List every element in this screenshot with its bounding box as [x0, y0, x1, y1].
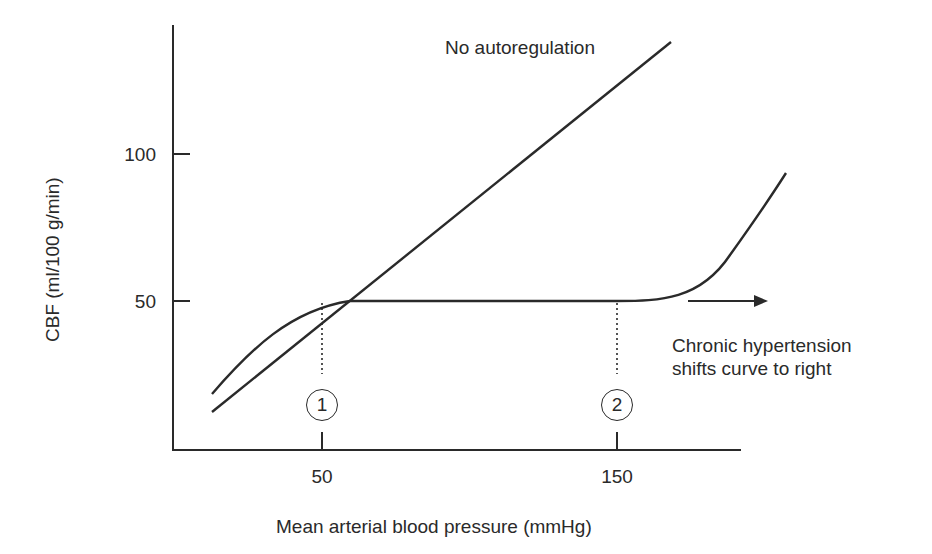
- chart-canvas: [0, 0, 932, 554]
- xtick-50-label: 50: [292, 467, 352, 486]
- y-axis-label: CBF (ml/100 g/min): [43, 177, 62, 342]
- no-autoregulation-line: [212, 42, 671, 412]
- ytick-100-label: 100: [96, 145, 156, 164]
- ytick-50-label: 50: [96, 292, 156, 311]
- marker-1-circle: 1: [306, 389, 338, 421]
- xtick-150-label: 150: [587, 467, 647, 486]
- marker-2-circle: 2: [601, 389, 633, 421]
- x-axis-label: Mean arterial blood pressure (mmHg): [276, 517, 592, 536]
- shift-annotation-line1: Chronic hypertension: [672, 336, 852, 355]
- no-autoregulation-annotation: No autoregulation: [445, 38, 595, 57]
- right-arrow-icon: [754, 295, 768, 307]
- shift-annotation-line2: shifts curve to right: [672, 359, 831, 378]
